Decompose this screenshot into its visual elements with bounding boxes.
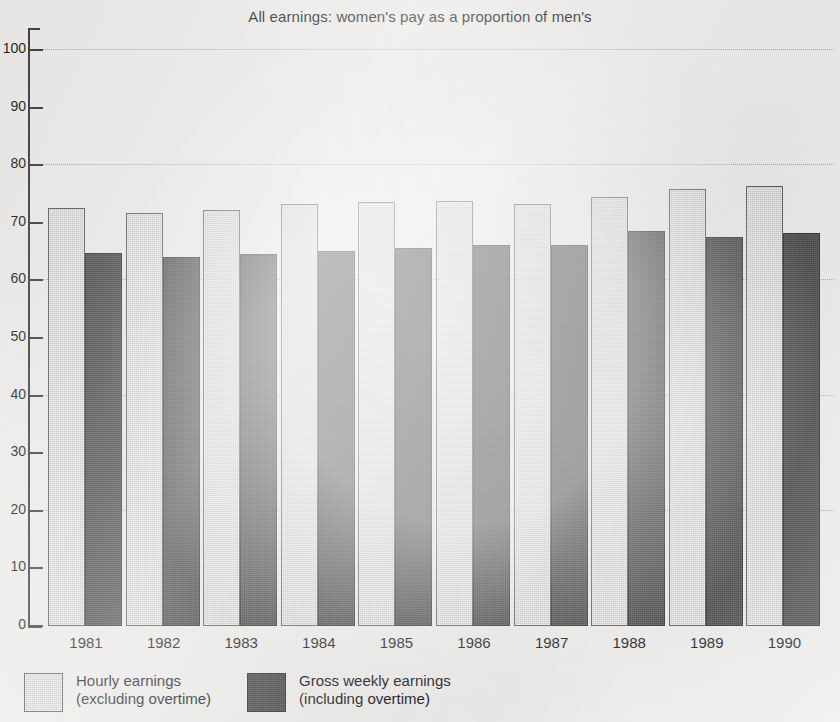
y-axis-tick-label: 80 [10, 155, 26, 171]
bar-hourly-earnings [281, 204, 318, 626]
x-axis-label: 1984 [274, 634, 364, 651]
bar-group [746, 186, 821, 626]
y-axis-tick-label: 40 [10, 386, 26, 402]
legend-item: Gross weekly earnings(including overtime… [247, 672, 451, 712]
legend-swatch-hourly [24, 673, 63, 712]
bar-group [669, 189, 744, 626]
bar-group [48, 208, 123, 626]
bar-gross-weekly-earnings [395, 248, 432, 626]
legend-label-line2: (excluding overtime) [76, 690, 211, 708]
bar-hourly-earnings [48, 208, 85, 626]
bar-group [203, 210, 278, 626]
y-axis-tick-label: 90 [10, 98, 26, 114]
legend-label-line1: Hourly earnings [76, 672, 211, 690]
bar-group [514, 204, 589, 626]
x-axis-label: 1985 [351, 634, 441, 651]
y-axis-tick-label: 50 [10, 328, 26, 344]
y-axis-tick-label: 0 [18, 616, 26, 632]
legend-label-line1: Gross weekly earnings [299, 672, 451, 690]
bars-layer [28, 28, 834, 628]
bar-gross-weekly-earnings [240, 254, 277, 626]
legend-swatch-weekly [247, 673, 286, 712]
bar-hourly-earnings [746, 186, 783, 626]
bar-group [281, 204, 356, 626]
bar-hourly-earnings [514, 204, 551, 626]
bar-group [358, 202, 433, 627]
bar-chart: All earnings: women's pay as a proportio… [0, 0, 840, 722]
bar-gross-weekly-earnings [473, 245, 510, 626]
legend-label: Hourly earnings(excluding overtime) [76, 672, 211, 708]
bar-group [591, 197, 666, 626]
chart-legend: Hourly earnings(excluding overtime)Gross… [24, 672, 451, 712]
x-axis-label: 1982 [119, 634, 209, 651]
bar-hourly-earnings [126, 213, 163, 626]
bar-hourly-earnings [669, 189, 706, 626]
x-axis-labels: 1981198219831984198519861987198819891990 [28, 634, 834, 658]
bar-group [126, 213, 201, 626]
y-axis-tick-label: 30 [10, 443, 26, 459]
y-axis-tick-label: 60 [10, 270, 26, 286]
bar-gross-weekly-earnings [783, 233, 820, 626]
bar-gross-weekly-earnings [163, 257, 200, 626]
y-axis-tick-label: 70 [10, 213, 26, 229]
y-axis-tick-label: 100 [3, 40, 26, 56]
bar-gross-weekly-earnings [706, 237, 743, 626]
bar-hourly-earnings [436, 201, 473, 626]
y-axis-tick-label: 10 [10, 558, 26, 574]
x-axis-label: 1989 [662, 634, 752, 651]
bar-hourly-earnings [203, 210, 240, 626]
y-axis-tick-label: 20 [10, 501, 26, 517]
legend-item: Hourly earnings(excluding overtime) [24, 672, 211, 712]
bar-hourly-earnings [358, 202, 395, 627]
chart-title: All earnings: women's pay as a proportio… [0, 8, 840, 25]
plot-area: 1009080706050403020100 [28, 28, 834, 628]
x-axis-label: 1987 [507, 634, 597, 651]
bar-hourly-earnings [591, 197, 628, 626]
legend-label: Gross weekly earnings(including overtime… [299, 672, 451, 708]
bar-gross-weekly-earnings [318, 251, 355, 626]
bar-gross-weekly-earnings [628, 231, 665, 626]
x-axis-label: 1990 [739, 634, 829, 651]
bar-group [436, 201, 511, 626]
legend-label-line2: (including overtime) [299, 690, 451, 708]
x-axis-label: 1983 [196, 634, 286, 651]
x-axis-label: 1981 [41, 634, 131, 651]
bar-gross-weekly-earnings [551, 245, 588, 626]
bar-gross-weekly-earnings [85, 253, 122, 626]
x-axis-label: 1986 [429, 634, 519, 651]
x-axis-label: 1988 [584, 634, 674, 651]
